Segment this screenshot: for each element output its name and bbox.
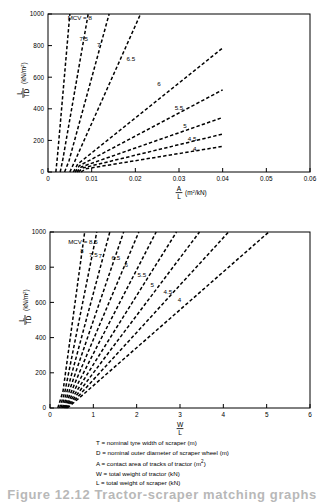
y-tick-label: 400 bbox=[35, 334, 46, 341]
legend-item: W = total weight of tractor (kN) bbox=[0, 469, 324, 479]
figure-caption: Figure 12.12 Tractor-scraper matching gr… bbox=[0, 487, 324, 502]
x-axis-denominator: L bbox=[177, 193, 181, 200]
x-axis-numerator: W bbox=[177, 421, 184, 428]
x-axis-units: (m2/kN) bbox=[185, 189, 207, 198]
mcv-curve-label: 5.5 bbox=[138, 271, 147, 278]
mcv-curve-label: 6 bbox=[157, 80, 161, 87]
y-tick-label: 400 bbox=[33, 105, 44, 112]
x-axis-numerator: A bbox=[177, 185, 182, 192]
mcv-curve-label: 6.5 bbox=[112, 254, 121, 261]
x-tick-label: 0.02 bbox=[129, 175, 142, 182]
legend-text: = total weight of tractor (kN) bbox=[104, 470, 180, 477]
x-tick-label: 0.03 bbox=[173, 175, 186, 182]
y-axis-numerator: L bbox=[16, 91, 23, 95]
mcv-curve-label: 7.5 bbox=[89, 251, 98, 258]
mcv-curve-label: 7 bbox=[99, 252, 103, 259]
legend-symbol: D bbox=[96, 449, 100, 456]
legend-item: T = nominal tyre width of scraper (m) bbox=[0, 438, 324, 448]
y-axis-denominator: TD bbox=[25, 315, 32, 324]
x-tick-label: 3 bbox=[178, 411, 182, 418]
mcv-curve-label: 4.5 bbox=[164, 288, 173, 295]
mcv-curve-label: 6 bbox=[125, 261, 129, 268]
legend-symbol: A bbox=[96, 460, 100, 467]
x-tick-label: 4 bbox=[222, 411, 226, 418]
x-tick-label: 2 bbox=[135, 411, 139, 418]
y-axis-denominator: TD bbox=[23, 88, 30, 97]
x-tick-label: 0 bbox=[46, 175, 50, 182]
x-tick-label: 1 bbox=[92, 411, 96, 418]
y-tick-label: 600 bbox=[33, 74, 44, 81]
legend-text-tail: ) bbox=[204, 460, 206, 467]
y-axis-numerator: L bbox=[18, 318, 25, 322]
x-tick-label: 6 bbox=[308, 411, 312, 418]
x-tick-label: 0.04 bbox=[216, 175, 229, 182]
legend-block: T = nominal tyre width of scraper (m) D … bbox=[0, 438, 324, 488]
mcv-curve-label: 7.5 bbox=[79, 35, 88, 42]
mcv-curve-label: 7 bbox=[97, 41, 101, 48]
legend-symbol: W bbox=[96, 470, 102, 477]
x-tick-label: 5 bbox=[265, 411, 269, 418]
y-tick-label: 800 bbox=[35, 264, 46, 271]
x-tick-label: 0.05 bbox=[260, 175, 273, 182]
legend-symbol: L bbox=[96, 479, 99, 486]
mcv-curve-label: 4.5 bbox=[188, 135, 197, 142]
legend-text: = nominal tyre width of scraper (m) bbox=[101, 439, 196, 446]
legend-text: = nominal outer diameter of scraper whee… bbox=[102, 449, 229, 456]
x-tick-label: 0.06 bbox=[304, 175, 317, 182]
mcv-curve-label: 4 bbox=[178, 296, 182, 303]
x-axis-denominator: L bbox=[178, 429, 182, 436]
mcv-curve-label: 4 bbox=[193, 145, 197, 152]
mcv-curve-label: 5.5 bbox=[175, 104, 184, 111]
legend-text: = contact area of tracks of tractor (m bbox=[102, 460, 202, 467]
legend-symbol: T bbox=[96, 439, 100, 446]
mcv-curve-label: MCV = 8 bbox=[68, 14, 93, 21]
mcv-curve-label: 5 bbox=[151, 281, 155, 288]
y-tick-label: 800 bbox=[33, 42, 44, 49]
x-tick-label: 0 bbox=[48, 411, 52, 418]
mcv-curve-label: MCV = 8.5 bbox=[68, 238, 98, 245]
y-tick-label: 1000 bbox=[30, 10, 45, 17]
y-tick-label: 200 bbox=[35, 369, 46, 376]
y-tick-label: 600 bbox=[35, 299, 46, 306]
legend-text: = total weight of scraper (kN) bbox=[101, 479, 180, 486]
y-tick-label: 1000 bbox=[32, 228, 47, 235]
x-tick-label: 0.01 bbox=[85, 175, 98, 182]
y-tick-label: 0 bbox=[42, 404, 46, 411]
mcv-curve-label: 6.5 bbox=[127, 55, 136, 62]
y-tick-label: 200 bbox=[33, 137, 44, 144]
legend-item: A = contact area of tracks of tractor (m… bbox=[0, 457, 324, 469]
mcv-curve-label: 5 bbox=[183, 122, 187, 129]
y-tick-label: 0 bbox=[40, 168, 44, 175]
legend-item: D = nominal outer diameter of scraper wh… bbox=[0, 448, 324, 458]
mcv-curve-label: 8 bbox=[80, 247, 84, 254]
